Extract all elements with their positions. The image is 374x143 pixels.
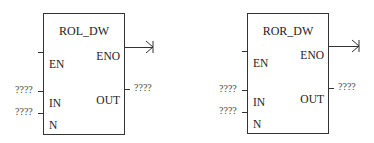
in-value: ???? bbox=[219, 83, 237, 94]
ror-dw-box: ROR_DW EN IN N ENO OUT bbox=[247, 13, 329, 134]
pin-in: IN bbox=[49, 97, 61, 109]
pin-out: OUT bbox=[96, 94, 120, 106]
en-wire bbox=[38, 52, 43, 53]
ror-dw-block: ROR_DW EN IN N ENO OUT ???? ???? ???? bbox=[187, 0, 374, 143]
out-value: ???? bbox=[134, 82, 152, 93]
pin-in: IN bbox=[253, 96, 265, 108]
pin-out: OUT bbox=[300, 93, 324, 105]
pin-en: EN bbox=[49, 58, 64, 70]
coil-arrow-icon bbox=[144, 40, 156, 54]
in-wire bbox=[38, 91, 43, 92]
out-value: ???? bbox=[338, 81, 356, 92]
block-title: ROR_DW bbox=[248, 24, 328, 39]
pin-eno: ENO bbox=[300, 49, 324, 61]
n-value: ???? bbox=[15, 106, 33, 117]
pin-en: EN bbox=[253, 57, 268, 69]
en-wire bbox=[242, 51, 247, 52]
n-wire bbox=[38, 113, 43, 114]
n-value: ???? bbox=[219, 105, 237, 116]
pin-eno: ENO bbox=[96, 50, 120, 62]
in-value: ???? bbox=[15, 84, 33, 95]
rol-dw-block: ROL_DW EN IN N ENO OUT ???? ???? ???? bbox=[0, 0, 187, 143]
n-wire bbox=[242, 112, 247, 113]
out-wire bbox=[329, 88, 334, 89]
out-wire bbox=[125, 89, 130, 90]
pin-n: N bbox=[253, 118, 261, 130]
coil-arrow-icon bbox=[350, 39, 362, 53]
rol-dw-box: ROL_DW EN IN N ENO OUT bbox=[43, 13, 125, 135]
pin-n: N bbox=[49, 119, 57, 131]
in-wire bbox=[242, 90, 247, 91]
block-title: ROL_DW bbox=[44, 24, 124, 39]
